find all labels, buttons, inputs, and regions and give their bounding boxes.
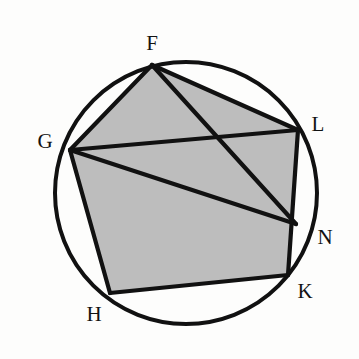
vertex-label-H: H	[86, 304, 101, 325]
vertex-label-G: G	[37, 131, 52, 152]
vertex-label-K: K	[297, 281, 312, 302]
geometry-figure: F G L N K H	[0, 0, 359, 359]
vertex-label-L: L	[312, 114, 325, 135]
vertex-label-N: N	[317, 227, 332, 248]
geometry-canvas	[0, 0, 359, 359]
vertex-label-F: F	[146, 33, 158, 54]
